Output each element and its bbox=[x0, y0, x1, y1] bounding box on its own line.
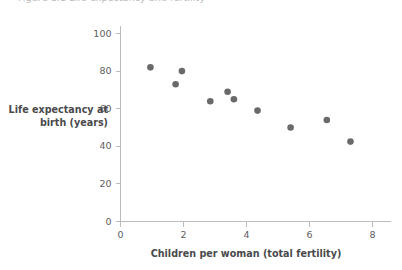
x-tick-label: 6 bbox=[306, 230, 312, 240]
data-point-marker bbox=[254, 107, 261, 114]
data-point-marker bbox=[172, 81, 179, 88]
y-tick-label: 0 bbox=[105, 217, 111, 227]
x-tick-label: 8 bbox=[369, 230, 375, 240]
scatter-chart-figure: Figure 1.1 Life expectancy and fertility… bbox=[0, 0, 402, 270]
y-tick-label: 80 bbox=[99, 66, 111, 76]
data-point-marker bbox=[231, 96, 238, 103]
data-point-marker bbox=[207, 98, 214, 105]
x-tick-label: 4 bbox=[243, 230, 249, 240]
x-tick-label: 2 bbox=[180, 230, 186, 240]
x-axis-title: Children per woman (total fertility) bbox=[151, 248, 342, 261]
data-point-marker bbox=[287, 124, 294, 131]
y-tick-label: 20 bbox=[99, 179, 111, 189]
data-point-marker bbox=[224, 88, 231, 95]
plot-area bbox=[0, 0, 402, 270]
x-tick-label: 0 bbox=[117, 230, 123, 240]
data-point-marker bbox=[147, 64, 154, 71]
data-point-marker bbox=[347, 138, 354, 145]
y-axis-title: Life expectancy at birth (years) bbox=[4, 104, 108, 130]
y-tick-label: 100 bbox=[93, 29, 111, 39]
data-point-marker bbox=[324, 117, 331, 124]
y-tick-label: 40 bbox=[99, 142, 111, 152]
data-point-marker bbox=[179, 68, 186, 75]
